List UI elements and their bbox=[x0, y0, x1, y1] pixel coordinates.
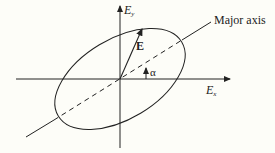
angle-label: α bbox=[150, 67, 156, 78]
major-axis-line-upper bbox=[182, 22, 211, 40]
major-axis-label: Major axis bbox=[214, 14, 266, 26]
x-axis-label-sub: x bbox=[213, 90, 216, 98]
vector-label: E bbox=[136, 40, 144, 52]
x-axis-label: Ex bbox=[206, 84, 216, 98]
major-axis-dashed bbox=[54, 40, 182, 120]
y-axis-label-sub: y bbox=[131, 10, 134, 18]
y-axis-label: Ey bbox=[124, 4, 134, 18]
major-axis-line-lower bbox=[26, 120, 54, 137]
